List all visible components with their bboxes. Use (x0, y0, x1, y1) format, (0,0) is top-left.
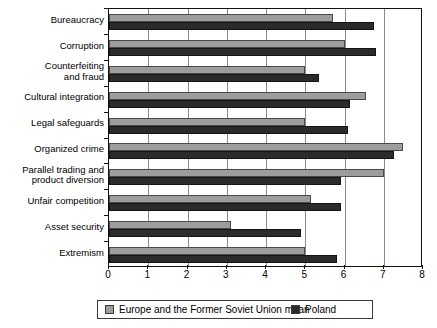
bar-group (109, 87, 421, 113)
x-tick-label: 0 (105, 269, 111, 281)
bar-europe-mean (109, 14, 333, 22)
bar-europe-mean (109, 92, 366, 100)
x-tick-label: 5 (301, 269, 307, 281)
bar-poland (109, 255, 337, 263)
bar-poland (109, 22, 374, 30)
category-label: Legal safeguards (0, 118, 104, 129)
bar-europe-mean (109, 66, 305, 74)
x-tick-label: 8 (419, 269, 425, 281)
bar-group (109, 35, 421, 61)
legend-swatch-icon (105, 305, 114, 314)
x-tick-label: 2 (184, 269, 190, 281)
bar-poland (109, 151, 394, 159)
x-tick-label: 7 (380, 269, 386, 281)
category-label: Parallel trading and product diversion (0, 165, 104, 186)
x-tick-label: 4 (262, 269, 268, 281)
x-tick-label: 3 (223, 269, 229, 281)
bar-group (109, 61, 421, 87)
bar-group (109, 216, 421, 242)
bar-poland (109, 177, 341, 185)
legend-item-poland: Poland (291, 304, 336, 316)
category-label: Cultural integration (0, 92, 104, 103)
legend-label: Europe and the Former Soviet Union mean (119, 304, 310, 316)
bar-europe-mean (109, 40, 345, 48)
bar-group (109, 113, 421, 139)
bar-group (109, 139, 421, 165)
category-label: Counterfeiting and fraud (0, 61, 104, 82)
legend-label: Poland (305, 304, 336, 316)
bar-group (109, 190, 421, 216)
bar-europe-mean (109, 143, 403, 151)
chart-legend: Europe and the Former Soviet Union mean … (97, 300, 373, 319)
legend-swatch-icon (291, 305, 300, 314)
category-label: Asset security (0, 222, 104, 233)
category-label: Corruption (0, 41, 104, 52)
x-tick-label: 6 (341, 269, 347, 281)
grouped-bar-chart: BureaucracyCorruptionCounterfeiting and … (0, 0, 437, 328)
bar-poland (109, 74, 319, 82)
legend-item-europe-mean: Europe and the Former Soviet Union mean (105, 304, 310, 316)
category-label: Bureaucracy (0, 15, 104, 26)
x-tick-label: 1 (144, 269, 150, 281)
category-label: Unfair competition (0, 196, 104, 207)
category-label: Organized crime (0, 144, 104, 155)
x-axis: 012345678 (108, 269, 422, 283)
bar-europe-mean (109, 221, 231, 229)
bar-europe-mean (109, 169, 384, 177)
bar-poland (109, 126, 348, 134)
bar-europe-mean (109, 118, 305, 126)
bar-rows (109, 9, 421, 266)
bar-poland (109, 100, 350, 108)
bar-group (109, 9, 421, 35)
bar-europe-mean (109, 247, 305, 255)
bar-poland (109, 229, 301, 237)
bar-poland (109, 203, 341, 211)
bar-group (109, 164, 421, 190)
category-label: Extremism (0, 248, 104, 259)
bar-poland (109, 48, 376, 56)
plot-area (108, 8, 422, 267)
category-axis-labels: BureaucracyCorruptionCounterfeiting and … (0, 8, 104, 267)
bar-europe-mean (109, 195, 311, 203)
